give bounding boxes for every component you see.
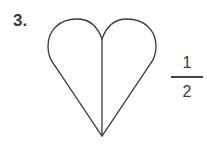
fraction-bar xyxy=(171,76,203,78)
fraction-denominator: 2 xyxy=(171,82,203,102)
fraction: 1 2 xyxy=(171,53,203,102)
fraction-numerator: 1 xyxy=(171,53,203,73)
